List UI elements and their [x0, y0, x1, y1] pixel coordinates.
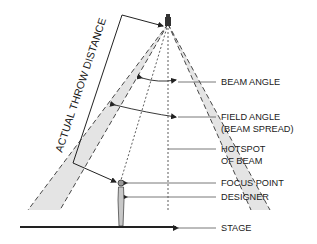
hotspot-line [121, 24, 168, 180]
beam-edge-left [60, 24, 168, 210]
field-edge-left [28, 24, 168, 210]
throw-arrow-top [122, 15, 163, 26]
label-designer: DESIGNER [221, 192, 269, 202]
label-beam-spread: (BEAM SPREAD) [221, 124, 294, 134]
designer-figure-icon [118, 180, 124, 226]
label-hotspot: HOTSPOT [221, 144, 266, 154]
label-stage: STAGE [221, 223, 251, 233]
lighting-diagram: ACTUAL THROW DISTANCE BEAM ANGLE FIELD A… [0, 0, 317, 244]
label-field-angle: FIELD ANGLE [221, 112, 280, 122]
label-beam-angle: BEAM ANGLE [221, 77, 280, 87]
label-focus-point: FOCUS POINT [221, 178, 284, 188]
label-of-beam: OF BEAM [221, 156, 262, 166]
field-angle-arc [115, 105, 176, 117]
beam-angle-arc [142, 78, 176, 81]
lighting-instrument-icon [165, 14, 171, 26]
